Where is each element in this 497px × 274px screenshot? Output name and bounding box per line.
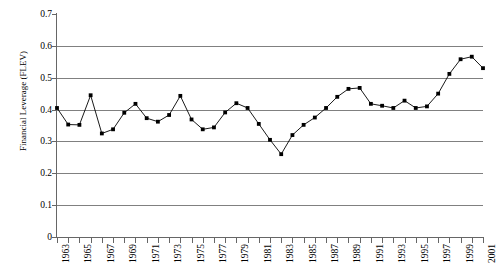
data-point-marker [414, 106, 418, 110]
data-point-marker [223, 111, 227, 115]
x-axis-tick-mark [281, 237, 282, 243]
x-axis-tick-label: 1973 [173, 244, 183, 274]
data-point-marker [201, 127, 205, 131]
x-axis-tick-mark [315, 237, 316, 243]
x-axis-tick-mark [270, 237, 271, 243]
x-axis-tick-mark [449, 237, 450, 243]
y-axis-tick-label: 0.3 [26, 137, 52, 146]
data-point-marker [302, 123, 306, 127]
x-axis-tick-mark [57, 237, 58, 243]
data-point-marker [447, 72, 451, 76]
x-axis-tick-mark [393, 237, 394, 243]
x-axis-tick-label: 1991 [375, 244, 385, 274]
y-axis-tick-mark [52, 46, 57, 47]
y-axis-tick-mark [52, 110, 57, 111]
data-point-marker [78, 123, 82, 127]
x-axis-tick-label: 1977 [218, 244, 228, 274]
x-axis-tick-mark [158, 237, 159, 243]
plot-area [57, 14, 483, 237]
x-axis-tick-mark [405, 237, 406, 243]
data-point-marker [167, 113, 171, 117]
x-axis-tick-mark [472, 237, 473, 243]
data-point-marker [145, 116, 149, 120]
x-axis-tick-mark [203, 237, 204, 243]
data-point-marker [380, 104, 384, 108]
x-axis-tick-mark [169, 237, 170, 243]
data-series-line [57, 14, 483, 237]
x-axis-tick-mark [236, 237, 237, 243]
x-axis-tick-label: 1981 [263, 244, 273, 274]
x-axis-tick-mark [68, 237, 69, 243]
y-axis-tick-mark [52, 141, 57, 142]
x-axis-tick-label: 1969 [128, 244, 138, 274]
x-axis-tick-mark [124, 237, 125, 243]
x-axis-tick-mark [438, 237, 439, 243]
x-axis-tick-label: 1985 [308, 244, 318, 274]
x-axis-tick-label: 1999 [465, 244, 475, 274]
x-axis-tick-mark [304, 237, 305, 243]
data-point-marker [268, 138, 272, 142]
x-axis-tick-mark [348, 237, 349, 243]
x-axis-ticks [0, 237, 494, 244]
x-axis-tick-mark [135, 237, 136, 243]
x-axis-tick-mark [91, 237, 92, 243]
x-axis-tick-label: 1979 [240, 244, 250, 274]
data-point-marker [134, 102, 138, 106]
data-point-marker [313, 116, 317, 120]
data-point-marker [66, 123, 70, 127]
data-point-marker [234, 101, 238, 105]
x-axis-tick-mark [382, 237, 383, 243]
x-axis-tick-mark [214, 237, 215, 243]
data-point-marker [190, 118, 194, 122]
data-point-marker [100, 132, 104, 136]
data-point-marker [470, 55, 474, 59]
data-point-marker [459, 57, 463, 61]
data-point-marker [246, 106, 250, 110]
x-axis-tick-label: 1987 [330, 244, 340, 274]
y-axis-tick-label: 0.4 [26, 105, 52, 114]
y-axis-tick-label: 0.6 [26, 41, 52, 50]
x-axis-tick-mark [192, 237, 193, 243]
data-point-marker [335, 95, 339, 99]
data-point-marker [291, 133, 295, 137]
x-axis-tick-mark [483, 237, 484, 243]
data-point-marker [89, 93, 93, 97]
data-point-marker [122, 111, 126, 115]
x-axis-tick-mark [147, 237, 148, 243]
x-axis-tick-mark [259, 237, 260, 243]
data-point-marker [212, 126, 216, 130]
data-point-marker [324, 106, 328, 110]
x-axis-tick-mark [180, 237, 181, 243]
x-axis-tick-mark [113, 237, 114, 243]
x-axis-tick-mark [292, 237, 293, 243]
data-point-marker [358, 86, 362, 90]
y-axis-tick-label: 0.7 [26, 10, 52, 19]
data-point-marker [178, 94, 182, 98]
y-axis-tick-label: 0.5 [26, 73, 52, 82]
y-axis-tick-mark [52, 237, 57, 238]
data-point-marker [347, 87, 351, 91]
x-axis-tick-mark [371, 237, 372, 243]
x-axis-tick-label: 1971 [151, 244, 161, 274]
data-point-marker [257, 122, 261, 126]
x-axis-tick-mark [427, 237, 428, 243]
x-axis-tick-label: 1983 [285, 244, 295, 274]
y-axis-tick-mark [52, 205, 57, 206]
x-axis-tick-label: 1965 [83, 244, 93, 274]
data-point-marker [436, 92, 440, 96]
x-axis-tick-mark [79, 237, 80, 243]
data-point-marker [403, 99, 407, 103]
x-axis-tick-mark [360, 237, 361, 243]
y-axis-tick-mark [52, 14, 57, 15]
x-axis-tick-mark [416, 237, 417, 243]
x-axis-tick-mark [248, 237, 249, 243]
x-axis-tick-mark [225, 237, 226, 243]
x-axis-tick-mark [337, 237, 338, 243]
data-point-marker [369, 102, 373, 106]
x-axis-tick-label: 1963 [61, 244, 71, 274]
y-axis-tick-label: 0.1 [26, 201, 52, 210]
data-point-marker [391, 106, 395, 110]
x-axis-tick-label: 1975 [196, 244, 206, 274]
data-point-marker [279, 152, 283, 156]
